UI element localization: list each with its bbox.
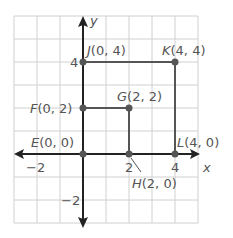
label-F: F(0, 2)	[30, 101, 72, 116]
label-H: H(2, 0)	[132, 176, 177, 191]
point-G	[126, 105, 133, 112]
tick-x-neg2: −2	[26, 160, 45, 175]
label-E: E(0, 0)	[31, 135, 74, 150]
tick-y-neg2: −2	[61, 193, 80, 208]
tick-x-4: 4	[171, 160, 179, 175]
point-J	[80, 59, 87, 66]
y-axis-label: y	[89, 13, 98, 28]
point-K	[172, 59, 179, 66]
label-G: G(2, 2)	[117, 89, 162, 104]
point-F	[80, 105, 87, 112]
tick-y-4: 4	[70, 55, 78, 70]
label-K: K(4, 4)	[162, 43, 205, 58]
x-axis-label: x	[202, 160, 211, 175]
point-H	[126, 151, 133, 158]
coordinate-plane: y x −2 2 4 4 −2 J(0, 4) K(4, 4) G(2, 2) …	[0, 0, 233, 238]
point-L	[172, 151, 179, 158]
label-L: L(4, 0)	[177, 135, 219, 150]
label-J: J(0, 4)	[84, 43, 126, 58]
point-E	[80, 151, 87, 158]
tick-x-2: 2	[125, 160, 133, 175]
